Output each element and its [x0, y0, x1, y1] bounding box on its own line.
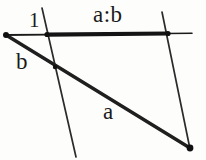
diagonal-segment-a [6, 35, 190, 148]
terminal-vertex-dot [187, 145, 194, 152]
left-transversal-diagonal-node [53, 65, 57, 69]
label-segment-a: a [103, 100, 113, 123]
diagonal-line-a [6, 35, 190, 148]
label-segment-b: b [16, 50, 28, 73]
right-transversal-baseline-node [165, 31, 170, 36]
left-transversal-baseline-node [44, 32, 49, 37]
baseline-horizontal [6, 33, 192, 35]
figure-canvas: a:b 1 b a [0, 0, 206, 160]
apex-vertex-dot [3, 32, 9, 38]
label-unit-one: 1 [29, 10, 40, 31]
transversal-left-line [42, 8, 76, 157]
baseline-thick-segment-ratio [47, 34, 168, 35]
label-ratio-a-to-b: a:b [93, 3, 123, 26]
